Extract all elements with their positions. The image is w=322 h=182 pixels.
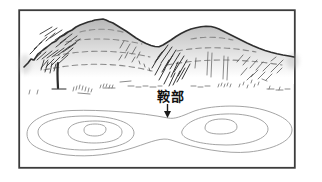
saddle-arrow-icon: [164, 104, 171, 118]
figure-saddle-diagram: 鞍部: [0, 0, 322, 182]
right-contour-ring-2: [182, 114, 268, 145]
saddle-annotation: 鞍部: [157, 89, 185, 118]
saddle-label: 鞍部: [157, 89, 185, 104]
left-contour-ring-4: [84, 124, 106, 136]
outer-contour: [27, 106, 292, 156]
contour-map: [27, 106, 292, 156]
diagram-canvas: 鞍部: [0, 0, 322, 182]
right-contour-ring-3: [205, 119, 237, 134]
mountain-sketch: [19, 19, 299, 94]
